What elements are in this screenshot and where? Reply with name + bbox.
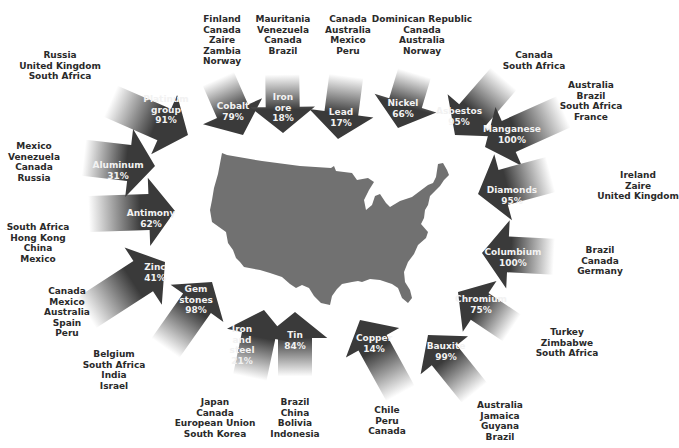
source-country: European Union <box>175 418 256 429</box>
source-country: Canada <box>372 25 472 36</box>
source-country: Israel <box>83 381 146 392</box>
source-country: South Korea <box>175 429 256 440</box>
source-country: Mexico <box>44 297 90 308</box>
import-percent: 31% <box>92 170 143 181</box>
mineral-name: Chromium <box>455 294 507 305</box>
import-percent: 62% <box>127 218 176 229</box>
source-country: Mexico <box>8 141 60 152</box>
import-percent: 84% <box>284 340 306 351</box>
source-country: Australia <box>44 307 90 318</box>
mineral-label-platinum-group: Platinumgroup91% <box>143 94 188 126</box>
source-country: Australia <box>560 80 623 91</box>
source-country: Brazil <box>270 397 319 408</box>
mineral-label-copper: Copper14% <box>356 333 392 354</box>
source-country: South Africa <box>7 222 70 233</box>
source-country: Venezuela <box>8 152 60 163</box>
mineral-name: Iron <box>272 92 294 103</box>
mineral-label-manganese: Manganese100% <box>483 124 541 145</box>
source-country: India <box>83 370 146 381</box>
source-country: Spain <box>44 318 90 329</box>
source-country: Norway <box>372 46 472 57</box>
mineral-label-asbestos: Asbestos95% <box>436 106 482 127</box>
source-country: South Africa <box>19 71 101 82</box>
mineral-name: group <box>143 105 188 116</box>
source-country: Venezuela <box>256 25 311 36</box>
source-countries-platinum-group: RussiaUnited KingdomSouth Africa <box>19 50 101 82</box>
mineral-name: Platinum <box>143 94 188 105</box>
import-percent: 79% <box>217 111 250 122</box>
mineral-label-diamonds: Diamonds95% <box>487 185 537 206</box>
source-country: Zimbabwe <box>536 338 599 349</box>
source-country: Peru <box>325 46 371 57</box>
mineral-name: and <box>230 335 255 346</box>
mineral-name: Diamonds <box>487 185 537 196</box>
mineral-label-antimony: Antimony62% <box>127 208 176 229</box>
mineral-name: ore <box>272 103 294 114</box>
source-country: Bolivia <box>270 418 319 429</box>
source-countries-asbestos: CanadaSouth Africa <box>503 50 566 71</box>
import-percent: 41% <box>144 272 166 283</box>
source-country: Guyana <box>477 421 523 432</box>
source-countries-antimony: South AfricaHong KongChinaMexico <box>7 222 70 264</box>
source-country: Canada <box>203 25 241 36</box>
mineral-label-nickel: Nickel66% <box>388 98 419 119</box>
import-percent: 91% <box>143 115 188 126</box>
source-countries-chromium: TurkeyZimbabweSouth Africa <box>536 327 599 359</box>
import-percent: 95% <box>436 116 482 127</box>
source-country: Norway <box>203 56 241 67</box>
source-country: Canada <box>8 162 60 173</box>
source-country: Zambia <box>203 46 241 57</box>
mineral-name: Lead <box>329 107 353 118</box>
import-percent: 18% <box>272 113 294 124</box>
source-country: Indonesia <box>270 429 319 440</box>
source-country: Germany <box>577 266 623 277</box>
source-country: Australia <box>477 400 523 411</box>
source-country: South Africa <box>536 348 599 359</box>
source-country: Mexico <box>325 35 371 46</box>
mineral-label-gem-stones: Gemstones98% <box>179 284 213 316</box>
source-country: Brazil <box>577 245 623 256</box>
import-percent: 17% <box>329 117 353 128</box>
source-country: Finland <box>203 14 241 25</box>
mineral-label-chromium: Chromium75% <box>455 294 507 315</box>
source-country: France <box>560 112 623 123</box>
mineral-label-tin: Tin84% <box>284 330 306 351</box>
source-country: South Africa <box>560 101 623 112</box>
source-countries-bauxite: AustraliaJamaicaGuyanaBrazil <box>477 400 523 442</box>
import-percent: 75% <box>455 304 507 315</box>
source-countries-gem-stones: BelgiumSouth AfricaIndiaIsrael <box>83 349 146 391</box>
source-countries-iron-and-steel: JapanCanadaEuropean UnionSouth Korea <box>175 397 256 439</box>
mineral-label-columbium: Columbium100% <box>485 247 542 268</box>
import-percent: 95% <box>487 195 537 206</box>
source-country: South Africa <box>83 360 146 371</box>
source-country: Australia <box>372 35 472 46</box>
mineral-name: Tin <box>284 330 306 341</box>
source-country: Mauritania <box>256 14 311 25</box>
source-country: Ireland <box>597 170 679 181</box>
mineral-name: Nickel <box>388 98 419 109</box>
source-countries-manganese: AustraliaBrazilSouth AfricaFrance <box>560 80 623 122</box>
source-country: Hong Kong <box>7 233 70 244</box>
source-country: Russia <box>19 50 101 61</box>
mineral-name: Manganese <box>483 124 541 135</box>
mineral-name: Bauxite <box>427 341 466 352</box>
source-country: Brazil <box>560 91 623 102</box>
mineral-label-lead: Lead17% <box>329 107 353 128</box>
source-country: Turkey <box>536 327 599 338</box>
source-country: South Africa <box>503 61 566 72</box>
source-countries-columbium: BrazilCanadaGermany <box>577 245 623 277</box>
mineral-label-bauxite: Bauxite99% <box>427 341 466 362</box>
source-countries-nickel: Dominican RepublicCanadaAustraliaNorway <box>372 14 472 56</box>
source-country: Canada <box>175 408 256 419</box>
mineral-name: Copper <box>356 333 392 344</box>
mineral-name: Cobalt <box>217 101 250 112</box>
import-percent: 66% <box>388 108 419 119</box>
source-country: Canada <box>325 14 371 25</box>
source-countries-aluminum: MexicoVenezuelaCanadaRussia <box>8 141 60 183</box>
mineral-label-iron-ore: Ironore18% <box>272 92 294 124</box>
mineral-name: Aluminum <box>92 160 143 171</box>
import-percent: 100% <box>483 134 541 145</box>
source-country: Australia <box>325 25 371 36</box>
source-country: China <box>270 408 319 419</box>
import-percent: 100% <box>485 257 542 268</box>
